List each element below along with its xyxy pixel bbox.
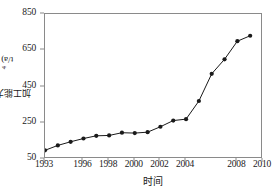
data-point bbox=[222, 57, 226, 61]
data-point bbox=[210, 72, 214, 76]
data-point bbox=[145, 130, 149, 134]
data-point bbox=[197, 99, 201, 103]
x-tick-mark bbox=[133, 158, 134, 162]
x-tick-mark bbox=[262, 158, 263, 162]
y-tick-label: 650 bbox=[22, 45, 36, 55]
y-axis-ticks: 50250450650850 bbox=[0, 0, 44, 171]
x-axis-ticks: 19931996199820002002200420082010 bbox=[44, 158, 262, 174]
series-line-加工能力 bbox=[45, 14, 263, 159]
x-tick-mark bbox=[159, 158, 160, 162]
data-point bbox=[69, 140, 73, 144]
chart-figure: 加工能力(104t/a) 50250450650850 199319961998… bbox=[0, 0, 278, 193]
data-point bbox=[184, 117, 188, 121]
x-tick-mark bbox=[44, 158, 45, 162]
data-point bbox=[81, 136, 85, 140]
x-tick-mark bbox=[108, 158, 109, 162]
x-tick-mark bbox=[236, 158, 237, 162]
x-tick-mark bbox=[82, 158, 83, 162]
y-tick-label: 250 bbox=[22, 117, 36, 127]
data-point bbox=[56, 143, 60, 147]
data-point-markers bbox=[45, 34, 252, 153]
data-point bbox=[171, 118, 175, 122]
y-tick-label: 450 bbox=[22, 81, 36, 91]
data-point bbox=[235, 39, 239, 43]
y-tick-label: 850 bbox=[22, 8, 36, 18]
x-axis-title: 时间 bbox=[44, 173, 262, 188]
data-point bbox=[107, 133, 111, 137]
data-point bbox=[248, 34, 252, 38]
plot-area bbox=[44, 13, 262, 158]
data-point bbox=[94, 134, 98, 138]
data-point bbox=[45, 148, 47, 152]
x-tick-mark bbox=[185, 158, 186, 162]
data-point bbox=[133, 131, 137, 135]
data-point bbox=[120, 131, 124, 135]
data-point bbox=[158, 125, 162, 129]
